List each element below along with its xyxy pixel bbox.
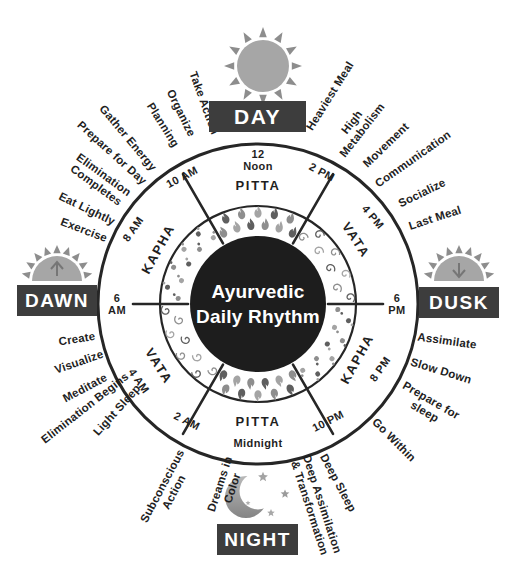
sun-ray-icon [474, 253, 482, 262]
pitta-flame-icon [247, 218, 255, 230]
kapha-dots-icon [194, 242, 205, 253]
vata-spiral-icon [180, 334, 190, 345]
sun-ray-icon [436, 253, 444, 262]
sun-ray-icon [485, 272, 494, 279]
vata-spiral-icon [161, 306, 169, 315]
dusk-badge: DUSK [419, 287, 499, 318]
night-badge: NIGHT [217, 524, 298, 555]
sun-ray-icon [44, 247, 51, 256]
kapha-dots-icon [172, 293, 181, 301]
kapha-dots-icon [331, 324, 341, 333]
sun-ray-icon [72, 253, 80, 262]
sun-ray-icon [428, 262, 437, 269]
sun-ray-icon [22, 272, 31, 279]
time-label: 6 AM [108, 292, 126, 317]
vata-spiral-icon [191, 351, 202, 362]
sun-ray-icon [292, 62, 302, 70]
sun-ray-icon [244, 89, 252, 100]
sun-ray-icon [63, 247, 70, 256]
time-label: 6 PM [388, 292, 405, 317]
ayurvedic-daily-rhythm-diagram: Heaviest Meal High Metabolism Movement C… [0, 0, 521, 574]
pitta-flame-icon [261, 218, 269, 230]
vata-spiral-icon [347, 294, 355, 303]
sunrise-icon [22, 245, 92, 281]
dawn-badge: DAWN [17, 285, 97, 316]
sun-ray-icon [224, 62, 234, 70]
day-badge: DAY [209, 101, 306, 132]
sun-ray-icon [274, 32, 282, 43]
dosha-label: PITTA [235, 414, 280, 429]
sun-ray-icon [244, 32, 252, 43]
sun-ray-icon [424, 272, 433, 279]
pitta-flame-icon [254, 390, 261, 402]
kapha-dots-icon [175, 274, 185, 283]
sun-ray-icon [79, 262, 88, 269]
kapha-dots-icon [162, 281, 171, 290]
pitta-flame-icon [261, 378, 269, 390]
sun-ray-icon [83, 272, 92, 279]
kapha-dots-icon [345, 318, 354, 327]
sun-ray-icon [259, 27, 267, 37]
sun-icon [224, 27, 302, 105]
kapha-dots-icon [335, 307, 344, 315]
pitta-flame-icon [274, 220, 284, 233]
vata-spiral-icon [314, 245, 325, 256]
star-icon [267, 509, 275, 516]
pitta-flame-icon [231, 220, 241, 233]
sun-ray-icon [446, 247, 453, 256]
sun-ray-icon [34, 253, 42, 262]
sun-ray-icon [481, 262, 490, 269]
pitta-flame-icon [231, 375, 241, 388]
time-label: 12 Noon [243, 148, 273, 173]
pitta-flame-icon [274, 375, 284, 388]
diagram-title: Ayurvedic Daily Rhythm [196, 280, 320, 329]
kapha-dots-icon [323, 341, 334, 351]
kapha-dots-icon [183, 257, 194, 267]
sun-ray-icon [229, 47, 240, 55]
pitta-flame-icon [254, 206, 261, 218]
sun-ray-icon [286, 77, 297, 85]
kapha-dots-icon [311, 355, 322, 366]
vata-spiral-icon [174, 315, 183, 325]
sun-ray-icon [229, 77, 240, 85]
sun-ray-icon [455, 245, 462, 253]
sun-ray-icon [53, 245, 60, 253]
pitta-flame-icon [247, 378, 255, 390]
time-label: Midnight [233, 437, 282, 449]
sun-ray-icon [465, 247, 472, 256]
sun-ray-icon [286, 47, 297, 55]
sun-ray-icon [274, 89, 282, 100]
sun-ray-icon [26, 262, 35, 269]
dosha-label: PITTA [235, 178, 280, 193]
vata-spiral-icon [326, 263, 336, 274]
star-icon [281, 489, 290, 497]
sunset-icon [424, 245, 494, 281]
vata-spiral-icon [333, 284, 342, 294]
